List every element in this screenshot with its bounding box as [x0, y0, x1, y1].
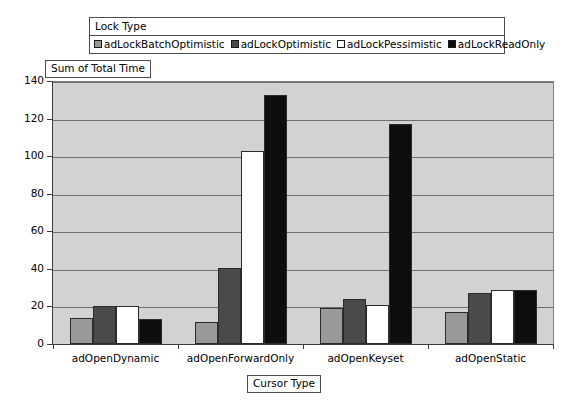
bar-adOpenForwardOnly-adLockReadOnly[interactable]: [264, 95, 287, 344]
legend-label-0: adLockBatchOptimistic: [104, 38, 225, 50]
legend-entry-adlockpessimistic: adLockPessimistic: [337, 38, 442, 50]
y-tick-label-20: 20: [0, 300, 44, 310]
y-tick-mark-40: [47, 269, 52, 270]
bar-adOpenStatic-adLockBatchOptimistic[interactable]: [445, 312, 468, 344]
legend-swatch-icon-3: [448, 40, 456, 48]
bar-adOpenKeyset-adLockReadOnly[interactable]: [389, 124, 412, 344]
bar-adOpenDynamic-adLockOptimistic[interactable]: [93, 306, 116, 344]
x-axis-title: Cursor Type: [247, 375, 321, 393]
y-tick-label-0: 0: [0, 338, 44, 348]
x-axis-label-adOpenStatic: adOpenStatic: [428, 352, 553, 365]
bar-adOpenDynamic-adLockPessimistic[interactable]: [116, 306, 139, 344]
x-tick-mark-2: [303, 344, 304, 349]
legend-entry-adlockbatchoptimistic: adLockBatchOptimistic: [94, 38, 225, 50]
y-axis-title: Sum of Total Time: [45, 60, 151, 78]
y-tick-mark-100: [47, 156, 52, 157]
legend-entries: adLockBatchOptimistic adLockOptimistic a…: [90, 36, 504, 53]
y-tick-mark-20: [47, 306, 52, 307]
y-tick-label-40: 40: [0, 263, 44, 273]
legend-label-1: adLockOptimistic: [241, 38, 331, 50]
x-tick-mark-0: [53, 344, 54, 349]
y-tick-label-100: 100: [0, 150, 44, 160]
legend-entry-adlockoptimistic: adLockOptimistic: [231, 38, 331, 50]
x-axis-label-adOpenDynamic: adOpenDynamic: [53, 352, 178, 365]
legend-swatch-icon-1: [231, 40, 239, 48]
bar-adOpenStatic-adLockPessimistic[interactable]: [491, 290, 514, 344]
bar-adOpenKeyset-adLockPessimistic[interactable]: [366, 305, 389, 344]
bar-adOpenForwardOnly-adLockPessimistic[interactable]: [241, 151, 264, 344]
x-tick-mark-4: [553, 344, 554, 349]
x-axis-label-adOpenKeyset: adOpenKeyset: [303, 352, 428, 365]
bar-adOpenKeyset-adLockBatchOptimistic[interactable]: [320, 308, 343, 344]
y-tick-mark-120: [47, 119, 52, 120]
bars-layer: [53, 81, 553, 344]
legend-entry-adlockreadonly: adLockReadOnly: [448, 38, 545, 50]
y-tick-label-60: 60: [0, 225, 44, 235]
bar-adOpenStatic-adLockOptimistic[interactable]: [468, 293, 491, 344]
bar-adOpenKeyset-adLockOptimistic[interactable]: [343, 299, 366, 344]
x-tick-mark-3: [428, 344, 429, 349]
y-tick-mark-0: [47, 344, 52, 345]
y-tick-label-80: 80: [0, 188, 44, 198]
bar-adOpenForwardOnly-adLockBatchOptimistic[interactable]: [195, 322, 218, 344]
y-tick-mark-80: [47, 194, 52, 195]
bar-adOpenDynamic-adLockBatchOptimistic[interactable]: [70, 318, 93, 344]
x-tick-mark-1: [178, 344, 179, 349]
y-tick-mark-140: [47, 81, 52, 82]
y-tick-mark-60: [47, 231, 52, 232]
legend-swatch-icon-0: [94, 40, 102, 48]
bar-adOpenForwardOnly-adLockOptimistic[interactable]: [218, 268, 241, 344]
y-tick-label-120: 120: [0, 113, 44, 123]
bar-adOpenDynamic-adLockReadOnly[interactable]: [139, 319, 162, 344]
legend-label-2: adLockPessimistic: [347, 38, 442, 50]
bar-adOpenStatic-adLockReadOnly[interactable]: [514, 290, 537, 344]
y-tick-label-140: 140: [0, 75, 44, 85]
chart-container: Lock Type adLockBatchOptimistic adLockOp…: [0, 0, 570, 411]
x-axis-label-adOpenForwardOnly: adOpenForwardOnly: [178, 352, 303, 365]
legend-label-3: adLockReadOnly: [458, 38, 545, 50]
legend-title: Lock Type: [90, 18, 504, 36]
legend: Lock Type adLockBatchOptimistic adLockOp…: [89, 17, 505, 54]
legend-swatch-icon-2: [337, 40, 345, 48]
